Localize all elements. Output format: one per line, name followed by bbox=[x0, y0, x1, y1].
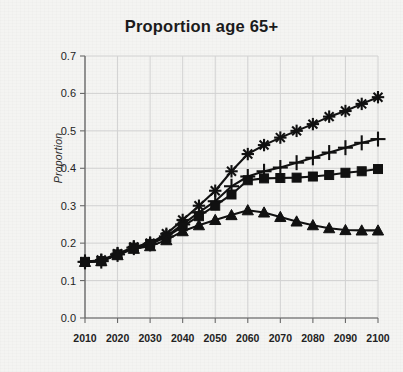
data-point-star bbox=[242, 148, 254, 160]
x-tick-label: 2020 bbox=[106, 332, 130, 344]
series-triangle bbox=[79, 205, 383, 267]
data-point-square bbox=[325, 171, 334, 180]
line-chart-plot: 0.00.10.20.30.40.50.60.7 201020202030204… bbox=[0, 0, 403, 372]
data-point-square bbox=[211, 201, 220, 210]
x-tick-label: 2070 bbox=[269, 332, 293, 344]
y-tick-label: 0.4 bbox=[61, 162, 76, 174]
data-point-star bbox=[290, 125, 302, 137]
data-point-star bbox=[274, 131, 286, 143]
x-tick-labels: 2010202020302040205020602070208020902100 bbox=[73, 332, 390, 344]
data-point-plus bbox=[354, 135, 369, 150]
y-tick-label: 0.5 bbox=[61, 125, 76, 137]
data-point-square bbox=[243, 176, 252, 185]
y-tick-label: 0.0 bbox=[61, 312, 76, 324]
data-point-square bbox=[308, 172, 317, 181]
x-tick-label: 2030 bbox=[138, 332, 162, 344]
x-tick-label: 2060 bbox=[236, 332, 260, 344]
y-tick-label: 0.2 bbox=[61, 237, 76, 249]
data-point-square bbox=[227, 190, 236, 199]
y-tick-label: 0.3 bbox=[61, 200, 76, 212]
chart-page: Proportion age 65+ Proportion 0.00.10.20… bbox=[0, 0, 403, 372]
data-point-square bbox=[341, 168, 350, 177]
data-point-plus bbox=[305, 150, 320, 165]
data-point-plus bbox=[273, 160, 288, 175]
data-point-square bbox=[357, 167, 366, 176]
data-point-plus bbox=[322, 145, 337, 160]
y-tick-labels: 0.00.10.20.30.40.50.60.7 bbox=[61, 50, 76, 324]
data-point-plus bbox=[338, 140, 353, 155]
data-point-square bbox=[260, 174, 269, 183]
data-point-plus bbox=[371, 132, 386, 147]
x-tick-label: 2090 bbox=[334, 332, 358, 344]
data-point-square bbox=[292, 173, 301, 182]
data-point-square bbox=[374, 165, 383, 174]
data-point-star bbox=[225, 165, 237, 177]
y-tick-label: 0.7 bbox=[61, 50, 76, 62]
data-point-star bbox=[372, 91, 384, 103]
data-point-star bbox=[339, 105, 351, 117]
series-plus bbox=[78, 132, 386, 270]
y-tick-label: 0.6 bbox=[61, 87, 76, 99]
series-layer bbox=[78, 91, 386, 269]
y-tick-label: 0.1 bbox=[61, 275, 76, 287]
x-tick-label: 2050 bbox=[204, 332, 228, 344]
x-tick-label: 2040 bbox=[171, 332, 195, 344]
data-point-star bbox=[307, 118, 319, 130]
x-tick-label: 2100 bbox=[366, 332, 390, 344]
x-tick-label: 2010 bbox=[73, 332, 97, 344]
x-tick-label: 2080 bbox=[301, 332, 325, 344]
data-point-star bbox=[356, 98, 368, 110]
data-point-star bbox=[323, 110, 335, 122]
data-point-star bbox=[258, 139, 270, 151]
data-point-square bbox=[276, 174, 285, 183]
